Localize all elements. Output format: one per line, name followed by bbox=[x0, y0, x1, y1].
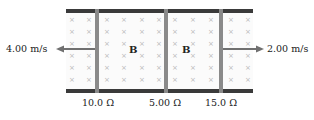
right-velocity-label: 2.00 m/s bbox=[267, 43, 308, 54]
resistor-label-left: 10.0 Ω bbox=[82, 97, 114, 108]
left-velocity-label: 4.00 m/s bbox=[6, 43, 47, 54]
resistor-label-middle: 5.00 Ω bbox=[149, 97, 181, 108]
field-label-b-2: B bbox=[182, 44, 190, 55]
right-arrow-icon bbox=[256, 46, 264, 53]
left-arrow-icon bbox=[56, 46, 64, 53]
field-label-b-1: B bbox=[129, 44, 137, 55]
resistor-label-right: 15.0 Ω bbox=[205, 97, 237, 108]
